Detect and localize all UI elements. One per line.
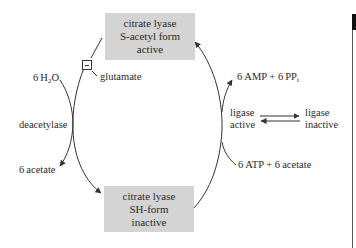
top-box-line3: active — [137, 43, 163, 56]
atp-input-curve — [222, 142, 236, 165]
water-label: 6 H2O — [33, 72, 59, 84]
amp-ppi-label: 6 AMP + 6 PPi — [237, 71, 299, 83]
bottom-box-line1: citrate lyase — [123, 190, 176, 203]
ligase-inactive-line2: inactive — [305, 119, 338, 131]
ppi-subscript: i — [297, 76, 299, 84]
acetate-product-label: 6 acetate — [19, 164, 56, 176]
deacetylase-label: deacetylase — [19, 119, 67, 131]
ligase-arc — [194, 42, 222, 208]
ligase-active-label: ligase active — [230, 107, 255, 131]
inhibition-minus-icon — [82, 60, 92, 70]
amp-ppi-text: 6 AMP + 6 PP — [237, 71, 297, 82]
ligase-active-line1: ligase — [230, 107, 255, 119]
water-suffix: O — [51, 72, 59, 83]
bottom-box-line3: inactive — [132, 216, 167, 229]
glutamate-label: glutamate — [100, 71, 141, 83]
top-box-line1: citrate lyase — [124, 17, 177, 30]
top-box-line2: S-acetyl form — [120, 30, 180, 43]
ligase-inactive-line1: ligase — [305, 107, 338, 119]
ligase-inactive-label: ligase inactive — [305, 107, 338, 131]
glutamate-connector — [92, 71, 97, 76]
citrate-lyase-sh-box: citrate lyase SH-form inactive — [104, 186, 194, 232]
page-edge-rule — [352, 14, 353, 248]
water-prefix: 6 H — [33, 72, 48, 83]
bottom-box-line2: SH-form — [129, 203, 168, 216]
atp-acetate-label: 6 ATP + 6 acetate — [238, 159, 311, 171]
ligase-active-line2: active — [230, 119, 255, 131]
page-edge-block — [352, 14, 356, 30]
citrate-lyase-acetyl-box: citrate lyase S-acetyl form active — [105, 13, 195, 60]
acetate-output-curve — [60, 125, 73, 166]
